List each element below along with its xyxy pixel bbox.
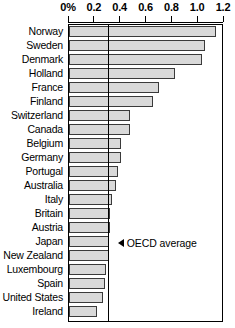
bar-row [69,291,222,305]
oecd-average-label: OECD average [127,237,197,249]
bar [69,208,110,219]
x-axis: 0%0.20.40.60.81.01.2 [0,0,235,24]
x-axis-tick [68,16,69,22]
bar-chart: 0%0.20.40.60.81.01.2 NorwaySwedenDenmark… [0,0,235,328]
bar [69,96,153,107]
bar-row [69,151,222,165]
category-label: Austria [0,220,66,234]
x-axis-line [68,22,223,23]
x-axis-tick [93,16,94,22]
bar [69,194,112,205]
x-axis-tick-label: 0.4 [112,1,127,13]
bar-row [69,249,222,263]
bar-row [69,25,222,39]
bar-row [69,277,222,291]
bar-row [69,137,222,151]
bar [69,306,97,317]
bar-row [69,179,222,193]
bar [69,250,109,261]
bar [69,54,202,65]
category-label: Luxembourg [0,262,66,276]
category-label: Ireland [0,304,66,318]
bar [69,264,106,275]
x-axis-tick-label: 0% [60,1,76,13]
left-triangle-icon [118,239,124,247]
category-label: Belgium [0,136,66,150]
bar-row [69,193,222,207]
category-label: New Zealand [0,248,66,262]
bar-row [69,81,222,95]
category-labels: NorwaySwedenDenmarkHollandFranceFinlandS… [0,24,66,318]
bar-row [69,67,222,81]
bar [69,68,175,79]
category-label: Japan [0,234,66,248]
category-label: Germany [0,150,66,164]
bar-row [69,221,222,235]
x-axis-tick-label: 0.2 [86,1,101,13]
bar [69,236,109,247]
x-axis-tick [145,16,146,22]
bar-row [69,165,222,179]
bar-row [69,263,222,277]
x-axis-tick [171,16,172,22]
bar [69,110,130,121]
bar-row [69,109,222,123]
category-label: France [0,80,66,94]
bar [69,40,205,51]
bar-row [69,39,222,53]
bar [69,222,110,233]
bar [69,166,118,177]
bar [69,124,130,135]
category-label: United States [0,290,66,304]
bar-row [69,53,222,67]
bar [69,278,105,289]
bar-row [69,207,222,221]
bar [69,152,121,163]
oecd-average-line [108,25,110,321]
category-label: Switzerland [0,108,66,122]
category-label: Denmark [0,52,66,66]
x-axis-tick [119,16,120,22]
category-label: Holland [0,66,66,80]
oecd-average-annotation: OECD average [118,237,197,249]
category-label: Italy [0,192,66,206]
category-label: Spain [0,276,66,290]
category-label: Norway [0,24,66,38]
bar-row [69,123,222,137]
category-label: Canada [0,122,66,136]
category-label: Finland [0,94,66,108]
category-label: Britain [0,206,66,220]
bar [69,292,103,303]
x-axis-tick-label: 1.2 [216,1,231,13]
bar [69,26,216,37]
x-axis-tick [197,16,198,22]
category-label: Portugal [0,164,66,178]
bar [69,138,121,149]
x-axis-tick [223,16,224,22]
category-label: Sweden [0,38,66,52]
x-axis-tick-label: 0.6 [138,1,153,13]
x-axis-tick-label: 1.0 [190,1,205,13]
bar-series [69,25,222,321]
bar [69,82,159,93]
category-label: Australia [0,178,66,192]
plot-area: OECD average [68,24,223,322]
bar-row [69,305,222,319]
x-axis-tick-label: 0.8 [164,1,179,13]
bar-row [69,95,222,109]
